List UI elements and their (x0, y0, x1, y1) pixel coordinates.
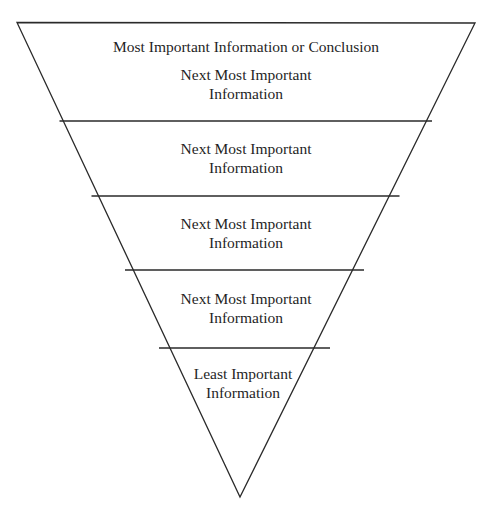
level-5-line-2: Information (0, 383, 489, 402)
level-3-line-1: Next Most Important (0, 214, 492, 233)
level-2-label: Next Most Important Information (0, 139, 492, 177)
level-1-heading: Most Important Information or Conclusion (0, 37, 492, 56)
level-2-line-2: Information (0, 158, 492, 177)
level-5-label: Least Important Information (0, 364, 489, 402)
level-3-label: Next Most Important Information (0, 214, 492, 252)
level-1-line-3: Information (0, 84, 492, 103)
level-1-line-2: Next Most Important (0, 65, 492, 84)
level-5-line-1: Least Important (0, 364, 489, 383)
level-4-line-2: Information (0, 308, 492, 327)
level-1-label: Most Important Information or Conclusion (0, 37, 492, 56)
inverted-pyramid-diagram: Most Important Information or Conclusion… (0, 0, 492, 519)
level-4-label: Next Most Important Information (0, 289, 492, 327)
level-3-line-2: Information (0, 233, 492, 252)
level-4-line-1: Next Most Important (0, 289, 492, 308)
level-2-line-1: Next Most Important (0, 139, 492, 158)
level-1-sublabel: Next Most Important Information (0, 65, 492, 103)
